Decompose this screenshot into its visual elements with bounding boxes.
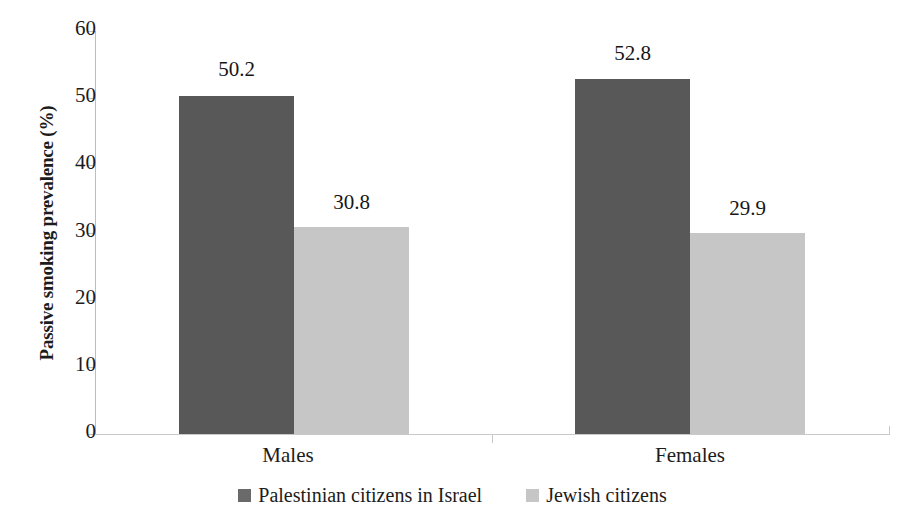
legend-label: Jewish citizens (546, 484, 667, 507)
x-category-label-males: Males (198, 443, 378, 468)
bar-value-males-jewish: 30.8 (294, 190, 409, 215)
y-tick-label: 30 (50, 220, 96, 241)
y-tick-label: 20 (50, 287, 96, 308)
y-tick-label: 0 (50, 421, 96, 442)
bar-females-jewish (690, 233, 805, 434)
x-tick-mark-group-divider (492, 434, 493, 443)
x-tick-mark-end (889, 426, 890, 435)
bar-chart: Passive smoking prevalence (%) 60 50 40 … (0, 0, 905, 526)
legend: Palestinian citizens in Israel Jewish ci… (0, 484, 905, 507)
legend-item-jewish-citizens[interactable]: Jewish citizens (526, 484, 667, 507)
bar-value-females-palestinian: 52.8 (575, 41, 690, 66)
legend-swatch-icon (526, 489, 539, 502)
legend-swatch-icon (238, 489, 251, 502)
legend-item-palestinian-citizens[interactable]: Palestinian citizens in Israel (238, 484, 482, 507)
legend-label: Palestinian citizens in Israel (258, 484, 482, 507)
y-tick-label: 10 (50, 354, 96, 375)
x-category-label-females: Females (600, 443, 780, 468)
bar-males-palestinian (179, 96, 294, 434)
y-tick-label: 50 (50, 85, 96, 106)
bar-value-females-jewish: 29.9 (690, 196, 805, 221)
bar-value-males-palestinian: 50.2 (179, 57, 294, 82)
y-tick-label: 40 (50, 152, 96, 173)
y-tick-label: 60 (50, 18, 96, 39)
bar-males-jewish (294, 227, 409, 434)
bar-females-palestinian (575, 79, 690, 434)
